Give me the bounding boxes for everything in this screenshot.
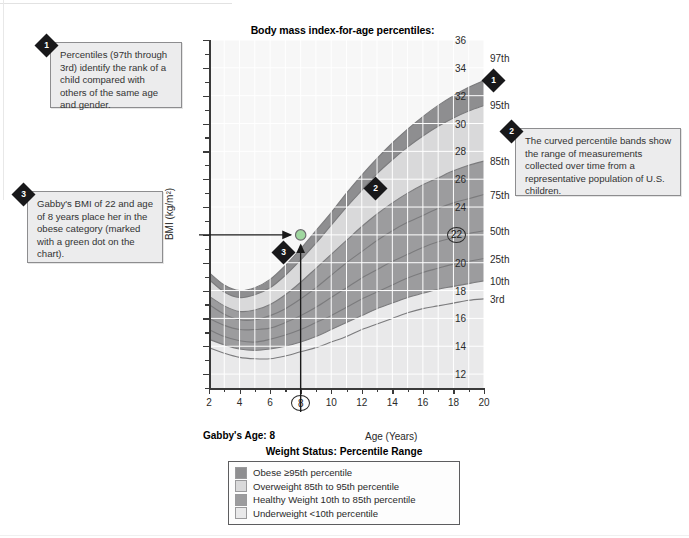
percentile-label-97th: 97th xyxy=(490,53,509,64)
chart-marker-2-number: 2 xyxy=(373,185,378,194)
bmi-chart: Body mass index-for-age percentiles: Gir… xyxy=(195,8,490,428)
legend-item: Healthy Weight 10th to 85th percentile xyxy=(235,493,454,507)
callout-2: The curved percentile bands show the ran… xyxy=(515,128,681,196)
legend-title: Weight Status: Percentile Range xyxy=(228,446,460,457)
percentile-label-95th: 95th xyxy=(490,100,509,111)
gabby-point-marker xyxy=(295,230,305,240)
percentile-label-50th: 50th xyxy=(490,225,509,236)
chart-title-line1: Body mass index-for-age percentiles: xyxy=(195,24,490,37)
chart-marker-1-number: 1 xyxy=(491,76,496,85)
callout-2-text: The curved percentile bands show the ran… xyxy=(525,135,671,196)
callout-1-text: Percentiles (97th through 3rd) identify … xyxy=(60,49,167,110)
callout-3-text: Gabby's BMI of 22 and age of 8 years pla… xyxy=(37,198,153,259)
scan-edge-bottom xyxy=(0,535,689,536)
callout-1: Percentiles (97th through 3rd) identify … xyxy=(50,42,182,108)
legend-swatch xyxy=(235,467,247,479)
callout-3: Gabby's BMI of 22 and age of 8 years pla… xyxy=(27,191,163,263)
x-tick xyxy=(484,388,485,394)
percentile-label-3rd: 3rd xyxy=(490,293,504,304)
page-root: Body mass index-for-age percentiles: Gir… xyxy=(0,0,689,538)
legend-swatch xyxy=(235,507,247,519)
percentile-label-85th: 85th xyxy=(490,156,509,167)
percentile-label-75th: 75th xyxy=(490,189,509,200)
legend: Weight Status: Percentile Range Obese ≥9… xyxy=(228,446,460,525)
callout-2-number: 2 xyxy=(509,127,514,136)
y-axis-title: BMI (kg/m²) xyxy=(164,188,175,240)
chart-marker-3-number: 3 xyxy=(281,249,286,258)
legend-label: Obese ≥95th percentile xyxy=(253,467,352,478)
percentile-label-10th: 10th xyxy=(490,275,509,286)
legend-swatch xyxy=(235,494,247,506)
legend-box: Obese ≥95th percentileOverweight 85th to… xyxy=(228,461,460,525)
annotation-overlay-svg xyxy=(195,40,484,440)
percentile-label-25th: 25th xyxy=(490,253,509,264)
plot-wrap: 12141618202224262830323436 2468101214161… xyxy=(195,40,484,388)
legend-item: Overweight 85th to 95th percentile xyxy=(235,480,454,494)
scan-edge-left xyxy=(3,0,4,200)
callout-1-number: 1 xyxy=(44,41,49,50)
scan-edge-top xyxy=(0,3,232,4)
legend-label: Healthy Weight 10th to 85th percentile xyxy=(253,494,416,505)
legend-swatch xyxy=(235,480,247,492)
legend-label: Underweight <10th percentile xyxy=(253,508,378,519)
callout-3-number: 3 xyxy=(21,190,26,199)
legend-item: Obese ≥95th percentile xyxy=(235,466,454,480)
legend-item: Underweight <10th percentile xyxy=(235,507,454,521)
legend-label: Overweight 85th to 95th percentile xyxy=(253,481,399,492)
